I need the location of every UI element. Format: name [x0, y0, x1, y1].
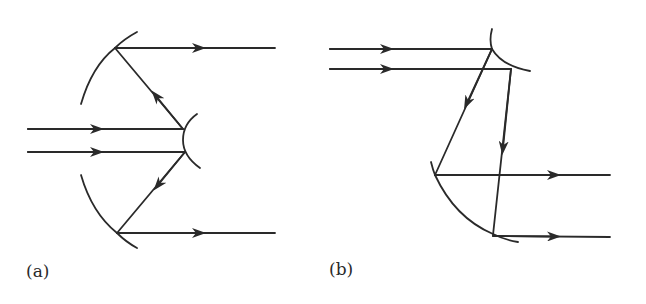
primary-mirror-lower [81, 175, 137, 248]
panel-label-a: (a) [26, 261, 49, 281]
primary-mirror-upper [81, 32, 137, 104]
panel-a [28, 32, 275, 248]
secondary-mirror [183, 114, 200, 168]
panel-b [330, 29, 610, 242]
reflected-ray-lower-arrow-seg [158, 152, 185, 185]
reflected-ray-upper-arrow-seg [156, 96, 183, 129]
secondary-mirror [491, 29, 531, 71]
outgoing-ray-2-arrow-seg [493, 236, 554, 237]
reflected-ray-1-arrow-seg [467, 49, 492, 103]
primary-mirror [431, 162, 518, 242]
panel-label-b: (b) [329, 259, 353, 279]
reflected-ray-2-arrow-seg [503, 69, 511, 148]
optics-diagram [0, 0, 646, 304]
